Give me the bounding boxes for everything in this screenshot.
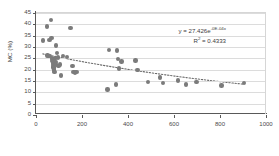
x-tick-label: 0: [23, 121, 49, 127]
y-tick-label: 5: [15, 100, 31, 106]
x-tick-mark: [128, 115, 129, 118]
x-tick-label: 800: [207, 121, 233, 127]
y-tick-mark: [33, 36, 36, 37]
data-point: [41, 38, 45, 42]
gridline-y: [36, 47, 265, 48]
data-point: [70, 64, 74, 68]
x-tick-label: 400: [115, 121, 141, 127]
equation-text: y = 27.426e: [179, 27, 211, 34]
data-point: [114, 82, 118, 86]
y-axis-title: MC (%): [6, 22, 13, 82]
x-tick-mark: [174, 115, 175, 118]
x-tick-label: 1000: [253, 121, 279, 127]
x-tick-label: 600: [161, 121, 187, 127]
data-point: [219, 83, 223, 87]
y-tick-label: 40: [15, 20, 31, 26]
data-point: [158, 75, 162, 79]
scatter-chart: MC (%) y = 27.426e-0E-04x R2 = 0.4333 05…: [0, 0, 279, 156]
r-squared-line: R2 = 0.4333: [148, 35, 226, 45]
data-point: [45, 24, 49, 28]
x-tick-label: 200: [69, 121, 95, 127]
data-point: [184, 82, 188, 86]
data-point: [176, 78, 180, 82]
data-point: [117, 66, 121, 70]
y-tick-mark: [33, 81, 36, 82]
x-tick-mark: [36, 115, 37, 118]
y-tick-mark: [33, 92, 36, 93]
data-point: [119, 59, 123, 63]
data-point: [56, 55, 60, 59]
gridline-y: [36, 92, 265, 93]
y-tick-mark: [33, 47, 36, 48]
data-point: [59, 73, 63, 77]
gridline-y: [36, 104, 265, 105]
data-point: [58, 62, 62, 66]
data-point: [115, 48, 119, 52]
y-tick-label: 45: [15, 9, 31, 15]
x-tick-mark: [82, 115, 83, 118]
gridline-y: [36, 13, 265, 14]
trendline-equation: y = 27.426e-0E-04x R2 = 0.4333: [148, 25, 226, 45]
x-tick-mark: [266, 115, 267, 118]
equation-exponent: -0E-04x: [211, 26, 226, 31]
y-tick-mark: [33, 13, 36, 14]
r-squared-value: = 0.4333: [200, 37, 226, 44]
y-tick-mark: [33, 104, 36, 105]
data-point: [74, 70, 78, 74]
y-tick-label: 0: [15, 111, 31, 117]
y-tick-label: 30: [15, 43, 31, 49]
equation-line: y = 27.426e-0E-04x: [148, 25, 226, 35]
data-point: [133, 58, 137, 62]
y-tick-label: 20: [15, 66, 31, 72]
data-point: [52, 70, 56, 74]
data-point: [68, 26, 72, 30]
y-tick-mark: [33, 24, 36, 25]
y-tick-label: 25: [15, 54, 31, 60]
y-tick-label: 10: [15, 88, 31, 94]
gridline-y: [36, 58, 265, 59]
gridline-y: [36, 81, 265, 82]
data-point: [194, 80, 198, 84]
y-tick-mark: [33, 70, 36, 71]
y-tick-label: 15: [15, 77, 31, 83]
y-tick-mark: [33, 58, 36, 59]
x-tick-mark: [220, 115, 221, 118]
data-point: [105, 87, 109, 91]
y-tick-label: 35: [15, 32, 31, 38]
